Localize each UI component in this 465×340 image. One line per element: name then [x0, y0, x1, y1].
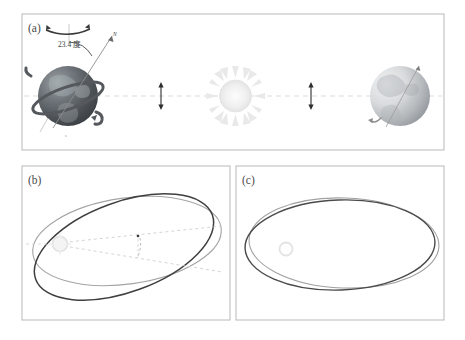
panel-b: (b) — [20, 166, 230, 321]
sun-focus-c — [280, 243, 293, 256]
panel-a-label: (a) — [28, 22, 41, 35]
sun-disc — [220, 80, 252, 112]
panel-c: (c) — [236, 166, 444, 320]
tilt-angle-label: 23.4 度 — [58, 39, 81, 49]
panel-a: (a) N — [22, 14, 444, 150]
inclination-vertex-dot — [137, 235, 140, 238]
panel-b-label: (b) — [28, 174, 42, 187]
figure-root: (a) N — [0, 0, 465, 340]
sun-disc-b — [53, 237, 68, 252]
panel-c-border — [236, 166, 444, 320]
north-axis-label: N — [112, 31, 117, 37]
sun-disc-c — [280, 243, 293, 256]
panel-c-label: (c) — [242, 174, 255, 187]
